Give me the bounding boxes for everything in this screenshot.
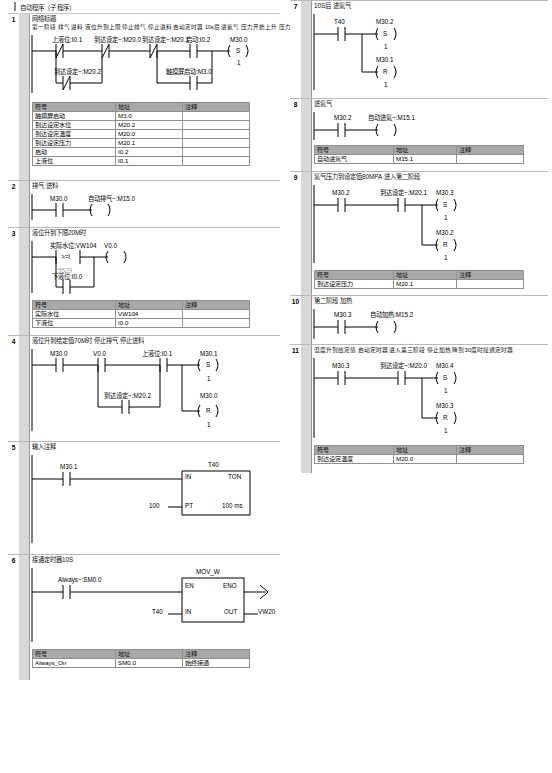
network-title: 网络标题 [30,15,280,23]
box-output-eno: ENO [223,582,237,589]
network-3[interactable]: 3 液位升到下限20M时 [8,227,280,335]
contact-label: 到达设定~:M20.2 [54,68,101,75]
coil-count: 1 [444,214,448,221]
symbol-cell: 到达设定水位 [33,121,116,130]
address-cell: I0.2 [116,148,183,157]
coil-address: 自动加热:M15.2 [370,311,413,318]
network-comment: 第一阶段 排气 进料 液位升到上限 停止排气 停止进料 启动定时器 10s后 进… [30,23,280,31]
header-comment: 注释 [183,650,250,659]
symbol-cell: Always_On [33,659,116,668]
contact-label: M30.3 [332,362,350,369]
contact-label: T40 [334,18,345,25]
coil-address: M30.3 [436,402,454,409]
address-cell: I0.0 [116,319,183,328]
network-1[interactable]: 1 网络标题 第一阶段 排气 进料 液位升到上限 停止排气 停止进料 启动定时器… [8,14,280,180]
symbol-table-header-row: 符号 地址 注释 [315,446,524,455]
symbol-cell: 到达设定压力 [33,139,116,148]
network-8[interactable]: 8 进氮气 M30.2 自动进氮~:M15.1 [290,98,548,171]
coil-address: 自动排气~:M15.0 [88,195,135,202]
header-comment: 注释 [183,103,250,112]
network-6[interactable]: 6 接通定时器10S [8,554,280,680]
network-11[interactable]: 11 温度升到给定值 启动定时器 进入第三阶段 停止加热 降到30度时接通定时器 [290,344,548,473]
symbol-table: 符号 地址 注释 到达设定温度M20.0 [314,445,524,464]
compare-operand-label: 实际水位:VW104 [50,242,96,249]
network-2[interactable]: 2 排气 进料 M30.0 自动排气~:M15.0 [8,180,280,227]
network-10[interactable]: 10 第二阶段 加热 M30.3 自动加热:M15.2 [290,295,548,344]
header-address: 地址 [116,301,183,310]
table-row: 启动I0.2 [33,148,250,157]
symbol-cell: 上液位 [33,157,116,166]
contact-label: 上液位:I0.1 [52,36,82,43]
contact-label: M30.3 [334,311,352,318]
network-gutter [19,442,30,554]
network-5[interactable]: 5 输入注释 M30.1 T40 IN [8,441,280,554]
network-title: 温度升到给定值 启动定时器 进入第三阶段 停止加热 降到30度时接通定时器 [312,346,548,354]
network-number: 5 [8,444,19,451]
network-7[interactable]: 7 10S后 进氮气 [290,0,548,98]
comment-cell [457,155,524,164]
address-cell: SM0.0 [116,659,183,668]
ladder-diagram: Always~:SM0.0 MOV_W EN ENO IN T40 OUT VW… [30,564,280,646]
comment-cell [183,148,250,157]
address-cell: M15.1 [394,155,457,164]
symbol-cell: 到达设定温度 [315,455,394,464]
network-number: 10 [290,298,301,305]
symbol-table-header-row: 符号 地址 注释 [33,103,250,112]
timer-name: T40 [208,461,219,468]
contact-label: 到达设定~:M20.2 [104,392,151,399]
contact-label: 到达设定~:M20.0 [380,362,427,369]
network-number: 11 [290,347,301,354]
coil-address: M30.2 [376,18,394,25]
header-address: 地址 [116,650,183,659]
address-cell: M20.1 [394,280,457,289]
network-4[interactable]: 4 液位升到给定值70M时 停止排气 停止进料 [8,335,280,441]
comment-cell [183,319,250,328]
header-comment: 注释 [457,271,524,280]
table-row: 到达设定温度M20.0 [315,455,524,464]
table-row: 触摸屏启动M3.0 [33,112,250,121]
contact-label: V0.0 [93,350,106,357]
network-number: 9 [290,174,301,181]
symbol-cell: 到达设定温度 [33,130,116,139]
coil-address: V0.0 [104,242,117,249]
header-symbol: 符号 [33,301,116,310]
box-output-value: VW20 [258,608,275,615]
contact-label: M30.2 [334,114,352,121]
network-title: 进氮气 [312,100,548,108]
comment-cell [457,280,524,289]
symbol-cell: 启动 [33,148,116,157]
address-cell: I0.1 [116,157,183,166]
box-input-in: IN [185,608,191,615]
header-comment: 注释 [457,146,524,155]
network-title: 排气 进料 [30,182,280,190]
ladder-editor-page: 自动程序（子程序） 1 网络标题 第一阶段 排气 进料 液位升到上限 停止排气 … [0,0,552,773]
header-address: 地址 [116,103,183,112]
table-row: 下液位I0.0 [33,319,250,328]
header-symbol: 符号 [33,650,116,659]
comment-cell [183,112,250,121]
symbol-cell: 自动进氮气 [315,155,394,164]
ladder-diagram: M30.0 自动排气~:M15.0 [30,190,280,222]
program-title: 自动程序（子程序） [20,3,75,12]
table-row: 实际水位VW104 [33,310,250,319]
comment-cell [183,139,250,148]
network-gutter [301,345,312,473]
coil-count: 1 [207,375,211,382]
program-title-bar: 自动程序（子程序） [8,0,280,14]
table-row: 到达设定压力M20.1 [33,139,250,148]
ladder-diagram: M30.2 自动进氮~:M15.1 [312,108,548,142]
header-address: 地址 [394,146,457,155]
header-symbol: 符号 [33,103,116,112]
network-gutter [301,99,312,171]
network-number: 3 [8,230,19,237]
address-cell: M3.0 [116,112,183,121]
coil-operation: R [383,68,388,75]
coil-count: 1 [384,43,388,50]
coil-operation: R [206,407,211,414]
box-input-in: IN [185,473,191,480]
comment-cell: 始终接通 [183,659,250,668]
network-number: 4 [8,338,19,345]
table-row: Always_OnSM0.0始终接通 [33,659,250,668]
network-gutter [19,181,30,227]
network-9[interactable]: 9 氮气压力到设定值80MPA 进入第二阶段 [290,171,548,295]
